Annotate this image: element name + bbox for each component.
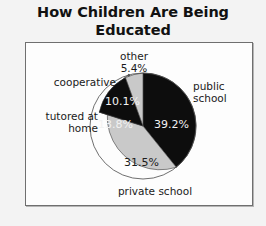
pie-value-cooperative: 10.1% [105,96,140,108]
pie-label-tutored-at-home: tutored athome [24,110,98,135]
pie-label-other-name: other [120,50,148,62]
chart-title-line-2: Educated [0,22,266,40]
pie-label-tutored-line-1: tutored at [46,110,98,122]
chart-title: How Children Are Being Educated [0,4,266,39]
chart-container: How Children Are Being Educated other5.4… [0,0,266,226]
pie-label-other: other5.4% [108,50,160,75]
chart-title-line-1: How Children Are Being [0,4,266,22]
pie-value-public-school: 39.2% [154,119,189,131]
pie-label-public-line-2: school [193,92,227,104]
pie-label-other-value: 5.4% [121,62,148,74]
pie-value-tutored-at-home: 13.8% [98,119,133,131]
pie-label-tutored-line-2: home [68,122,98,134]
pie-label-public-line-1: public [193,80,225,92]
pie-label-cooperative: cooperative [36,76,116,88]
pie-value-private-school: 31.5% [124,157,159,169]
pie-label-public-school: publicschool [193,80,243,105]
pie-label-private-school: private school [100,185,210,197]
